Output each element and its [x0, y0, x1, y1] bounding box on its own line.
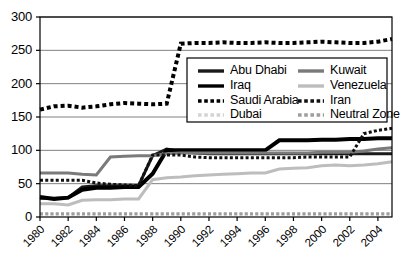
y-tick-label: 200: [0, 76, 32, 91]
legend-item-venezuela[interactable]: Venezuela: [330, 78, 387, 92]
legend-item-kuwait[interactable]: Kuwait: [330, 63, 366, 77]
y-tick-label: 100: [0, 142, 32, 157]
legend-item-abu-dhabi[interactable]: Abu Dhabi: [230, 63, 287, 77]
legend-item-dubai[interactable]: Dubai: [230, 107, 262, 121]
y-tick-label: 300: [0, 9, 32, 24]
y-tick-label: 50: [0, 176, 32, 191]
y-tick-label: 150: [0, 109, 32, 124]
legend-item-neutral-zone[interactable]: Neutral Zone: [330, 107, 400, 121]
line-chart: 050100150200250300 198019821984198619881…: [0, 0, 407, 261]
legend-item-iran[interactable]: Iran: [330, 93, 351, 107]
y-tick-label: 250: [0, 42, 32, 57]
x-tick-marks: [40, 217, 378, 221]
legend-item-iraq[interactable]: Iraq: [230, 78, 251, 92]
legend-item-saudi-arabia[interactable]: Saudi Arabia: [230, 93, 299, 107]
y-tick-label: 0: [0, 209, 32, 224]
chart-canvas: [0, 0, 407, 261]
